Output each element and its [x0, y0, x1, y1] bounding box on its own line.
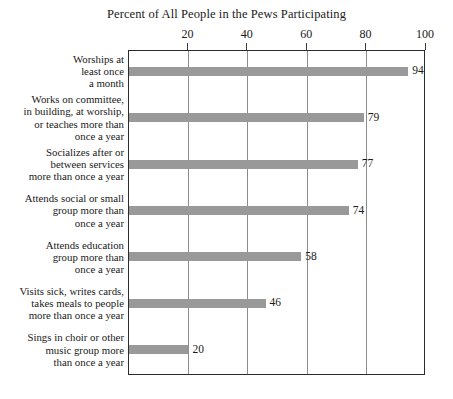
bar-value-label: 79 — [368, 112, 380, 124]
bar-value-label: 46 — [270, 298, 282, 310]
category-label-line: once a year — [0, 130, 124, 142]
category-label: Sings in choir or othermusic group moret… — [0, 331, 124, 368]
category-label: Attends social or smallgroup more thanon… — [0, 192, 124, 229]
plot-area: 94797774584620 — [128, 50, 425, 375]
x-tick-label: 100 — [416, 27, 434, 41]
category-label-line: Works on committee, — [0, 93, 124, 105]
bar — [129, 67, 408, 76]
bar-value-label: 94 — [412, 65, 424, 77]
category-label-line: group more than — [0, 251, 124, 263]
bar — [129, 345, 188, 354]
category-label-line: a month — [0, 77, 124, 89]
bar-value-label: 77 — [362, 158, 374, 170]
bar — [129, 160, 358, 169]
x-tick-mark — [187, 43, 188, 50]
category-label-line: Attends education — [0, 239, 124, 251]
category-label-line: Attends social or small — [0, 192, 124, 204]
bar — [129, 113, 364, 122]
x-tick-mark — [425, 43, 426, 50]
x-tick-label: 80 — [360, 27, 372, 41]
x-tick-label: 40 — [241, 27, 253, 41]
chart-title: Percent of All People in the Pews Partic… — [0, 7, 453, 22]
y-axis-category-labels: Worships atleast oncea monthWorks on com… — [0, 50, 124, 375]
category-label: Attends educationgroup more thanonce a y… — [0, 239, 124, 276]
bar-value-label: 74 — [353, 205, 365, 217]
category-label-line: once a year — [0, 263, 124, 275]
bars-layer: 94797774584620 — [129, 51, 424, 374]
category-label-line: between services — [0, 158, 124, 170]
category-label-line: more than once a year — [0, 309, 124, 321]
x-tick-label: 20 — [181, 27, 193, 41]
category-label: Works on committee,in building, at worsh… — [0, 93, 124, 142]
category-label-line: Socializes after or — [0, 146, 124, 158]
x-tick-label: 60 — [300, 27, 312, 41]
category-label-line: Sings in choir or other — [0, 331, 124, 343]
category-label-line: in building, at worship, — [0, 105, 124, 117]
x-tick-mark — [365, 43, 366, 50]
bar-value-label: 20 — [192, 344, 204, 356]
category-label-line: group more than — [0, 204, 124, 216]
bar-value-label: 58 — [305, 251, 317, 263]
category-label-line: Worships at — [0, 53, 124, 65]
x-tick-mark — [246, 43, 247, 50]
x-axis-tick-marks — [0, 43, 453, 50]
x-axis-tick-labels: 20406080100 — [0, 27, 453, 43]
bar-chart: Percent of All People in the Pews Partic… — [0, 0, 453, 399]
category-label-line: Visits sick, writes cards, — [0, 285, 124, 297]
category-label-line: takes meals to people — [0, 297, 124, 309]
category-label: Visits sick, writes cards,takes meals to… — [0, 285, 124, 322]
bar — [129, 206, 349, 215]
category-label: Worships atleast oncea month — [0, 53, 124, 90]
bar — [129, 299, 266, 308]
category-label-line: once a year — [0, 217, 124, 229]
bar — [129, 252, 301, 261]
x-tick-mark — [306, 43, 307, 50]
category-label-line: least once — [0, 65, 124, 77]
category-label: Socializes after orbetween servicesmore … — [0, 146, 124, 183]
category-label-line: more than once a year — [0, 170, 124, 182]
category-label-line: or teaches more than — [0, 118, 124, 130]
category-label-line: than once a year — [0, 356, 124, 368]
category-label-line: music group more — [0, 344, 124, 356]
